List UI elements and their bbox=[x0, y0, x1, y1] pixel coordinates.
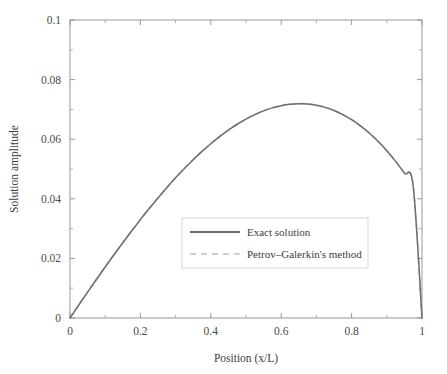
chart-legend: Exact solution Petrov–Galerkin's method bbox=[182, 218, 368, 268]
y-tick-label: 0.02 bbox=[41, 252, 61, 264]
x-tick-label: 0.2 bbox=[133, 325, 148, 337]
y-axis-title: Solution amplitude bbox=[8, 125, 21, 213]
chart-figure: 00.20.40.60.8100.020.040.060.080.1 Posit… bbox=[0, 0, 447, 374]
x-tick-label: 0.8 bbox=[344, 325, 359, 337]
y-tick-label: 0.04 bbox=[41, 193, 61, 205]
x-axis-title: Position (x/L) bbox=[214, 352, 278, 365]
x-tick-label: 0 bbox=[67, 325, 73, 337]
x-tick-label: 0.4 bbox=[204, 325, 219, 337]
y-tick-label: 0 bbox=[55, 312, 61, 324]
line-chart: 00.20.40.60.8100.020.040.060.080.1 Posit… bbox=[0, 0, 447, 374]
y-tick-label: 0.1 bbox=[47, 14, 62, 26]
x-tick-label: 1 bbox=[419, 325, 425, 337]
legend-label-petrov-galerkin: Petrov–Galerkin's method bbox=[247, 248, 362, 260]
legend-label-exact-solution: Exact solution bbox=[247, 226, 311, 238]
x-tick-label: 0.6 bbox=[274, 325, 289, 337]
y-tick-label: 0.08 bbox=[41, 74, 61, 86]
y-tick-label: 0.06 bbox=[41, 133, 61, 145]
